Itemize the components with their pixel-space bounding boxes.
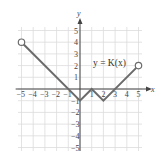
y-tick-label: 4 <box>74 38 78 47</box>
y-axis-label: y <box>76 9 81 18</box>
x-axis-label: x <box>150 85 155 94</box>
x-tick-label: 2 <box>101 90 105 99</box>
x-tick-label: −5 <box>17 90 26 99</box>
y-tick-label: 1 <box>74 73 78 82</box>
function-label: y = K(x) <box>93 58 126 69</box>
x-tick-label: −3 <box>40 90 49 99</box>
open-endpoint-icon <box>135 62 141 68</box>
axes <box>16 18 152 151</box>
y-tick-label: −3 <box>71 120 80 129</box>
open-endpoint-icon <box>18 39 24 45</box>
y-axis-arrow-icon <box>78 18 83 24</box>
y-tick-label: −5 <box>71 144 80 153</box>
function-graph: −5−4−3−2−11234554321−1−2−3−4−5 y = K(x) … <box>0 0 158 161</box>
y-tick-label: 5 <box>74 27 78 36</box>
y-tick-label: 3 <box>74 50 78 59</box>
x-tick-label: −2 <box>52 90 61 99</box>
x-tick-label: 5 <box>137 90 141 99</box>
x-tick-label: 4 <box>125 90 129 99</box>
y-tick-label: −2 <box>71 108 80 117</box>
y-tick-label: −4 <box>71 132 80 141</box>
x-tick-label: −4 <box>28 90 37 99</box>
y-tick-label: 2 <box>74 62 78 71</box>
